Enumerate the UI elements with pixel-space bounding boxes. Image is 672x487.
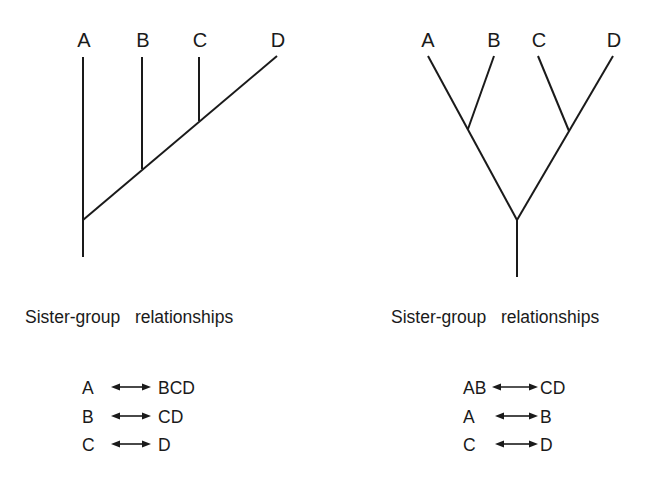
branch-line: [538, 56, 569, 131]
taxon-labels: ABCD: [421, 29, 621, 51]
double-arrow-icon: [111, 384, 151, 391]
taxon-label: A: [421, 29, 435, 51]
relationship-row: BCD: [82, 407, 183, 427]
relationship-left: B: [82, 407, 94, 427]
branch-line: [517, 56, 613, 220]
relationship-list: ABCDABCD: [463, 378, 565, 455]
caption-sister-group-relationships: Sister-group relationships: [25, 307, 233, 327]
relationship-row: ABCD: [82, 378, 195, 398]
taxon-label: D: [607, 29, 621, 51]
relationship-left: AB: [463, 378, 486, 398]
taxon-label: B: [136, 29, 149, 51]
relationship-row: AB: [463, 407, 552, 427]
taxon-label: D: [271, 29, 285, 51]
balanced-tree: ABCDSister-group relationshipsABCDABCD: [391, 29, 621, 455]
double-arrow-icon: [492, 384, 538, 391]
relationship-right: D: [158, 435, 171, 455]
relationship-list: ABCDBCDCD: [82, 378, 195, 455]
branches: [83, 56, 277, 257]
branch-line: [428, 56, 517, 220]
caption-sister-group-relationships: Sister-group relationships: [391, 307, 599, 327]
relationship-left: C: [82, 435, 95, 455]
relationship-left: C: [463, 435, 476, 455]
pectinate-tree: ABCDSister-group relationshipsABCDBCDCD: [25, 29, 285, 455]
taxon-label: C: [193, 29, 207, 51]
branches: [428, 56, 613, 277]
taxon-labels: ABCD: [77, 29, 285, 51]
double-arrow-icon: [495, 441, 538, 448]
relationship-right: CD: [158, 407, 183, 427]
relationship-left: A: [463, 407, 475, 427]
taxon-label: B: [487, 29, 500, 51]
branch-line: [83, 56, 277, 220]
branch-line: [468, 56, 494, 129]
relationship-right: BCD: [158, 378, 195, 398]
relationship-left: A: [82, 378, 94, 398]
double-arrow-icon: [495, 413, 538, 420]
relationship-row: CD: [82, 435, 171, 455]
relationship-right: B: [540, 407, 552, 427]
taxon-label: C: [532, 29, 546, 51]
taxon-label: A: [77, 29, 91, 51]
relationship-right: CD: [540, 378, 565, 398]
double-arrow-icon: [111, 413, 151, 420]
relationship-right: D: [540, 435, 553, 455]
cladogram-figure: ABCDSister-group relationshipsABCDBCDCD …: [0, 0, 672, 487]
double-arrow-icon: [111, 441, 151, 448]
relationship-row: CD: [463, 435, 553, 455]
relationship-row: ABCD: [463, 378, 565, 398]
